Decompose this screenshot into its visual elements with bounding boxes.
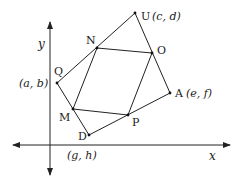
- point-U: [134, 12, 137, 15]
- label-A-coord: (e, f): [186, 87, 212, 100]
- label-Q-coord: (a, b): [19, 77, 48, 90]
- label-D-coord: (g, h): [67, 149, 97, 162]
- point-N: [96, 47, 99, 50]
- label-D: D: [78, 130, 87, 143]
- point-labels: U (c, d) N O Q (a, b) A (e, f) M P D (g,…: [19, 10, 212, 162]
- label-U: U: [141, 10, 150, 23]
- point-M: [72, 108, 75, 111]
- outer-quadrilateral-QUAD: [57, 13, 170, 135]
- y-axis-label: y: [37, 37, 45, 51]
- point-D: [88, 134, 91, 137]
- point-Q: [56, 82, 59, 85]
- label-P: P: [132, 116, 140, 129]
- x-axis-label: x: [209, 149, 216, 163]
- point-P: [127, 114, 130, 117]
- point-O: [151, 52, 154, 55]
- vertex-points: [56, 12, 172, 137]
- label-N: N: [86, 34, 96, 47]
- label-Q: Q: [54, 65, 63, 78]
- point-A: [169, 92, 172, 95]
- quadrilateral-midpoint-diagram: x y U (c, d) N O Q (a, b) A (e, f) M P D…: [0, 0, 243, 185]
- label-A: A: [174, 87, 184, 100]
- label-O: O: [157, 44, 166, 57]
- label-M: M: [59, 111, 70, 124]
- label-U-coord: (c, d): [152, 10, 181, 23]
